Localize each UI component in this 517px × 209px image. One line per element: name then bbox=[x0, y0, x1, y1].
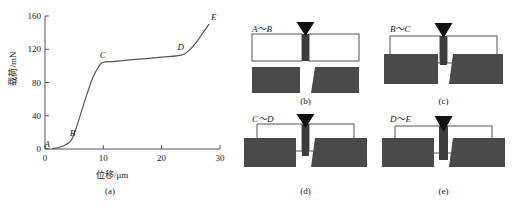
curve-point-label-d: D bbox=[177, 42, 185, 52]
chart-panel-a: 0 40 80 120 160 0 10 20 30 A B C D E 载荷/… bbox=[0, 0, 232, 209]
x-tick-label-30: 30 bbox=[216, 153, 226, 163]
curve-point-label-c: C bbox=[100, 50, 107, 60]
substrate-right-e bbox=[449, 138, 505, 167]
substrate-right-d bbox=[311, 138, 367, 167]
stage-label-d: C～D bbox=[252, 112, 274, 125]
schematic-panel-b: A～B (b) bbox=[236, 16, 375, 115]
x-axis-title: 位移/μm bbox=[96, 168, 128, 181]
y-tick-label-120: 120 bbox=[28, 44, 42, 54]
x-axis-ticks bbox=[45, 145, 220, 149]
stage-label-e: D～E bbox=[390, 112, 411, 125]
curve-point-label-a: A bbox=[44, 139, 51, 149]
substrate-left-b bbox=[252, 67, 300, 93]
y-tick-label-80: 80 bbox=[32, 78, 42, 88]
x-tick-label-20: 20 bbox=[157, 153, 167, 163]
panel-caption-e: (e) bbox=[374, 186, 513, 196]
curve-point-label-e: E bbox=[210, 12, 217, 22]
x-tick-label-0: 0 bbox=[43, 153, 48, 163]
panel-caption-d: (d) bbox=[236, 186, 375, 196]
film-left-b bbox=[252, 34, 302, 61]
panel-caption-b: (b) bbox=[236, 96, 375, 106]
substrate-left-e bbox=[382, 138, 434, 167]
indenter-column-c bbox=[440, 36, 447, 65]
indenter-column-b bbox=[302, 34, 309, 61]
panel-caption-a: (a) bbox=[105, 186, 115, 196]
schematic-panel-c: B～C (c) bbox=[374, 16, 513, 115]
schematic-panel-d: C～D (d) bbox=[236, 106, 375, 205]
load-displacement-curve bbox=[53, 24, 209, 148]
substrate-right-c bbox=[449, 54, 503, 84]
substrate-left-d bbox=[244, 138, 296, 167]
schematic-panel-e: D～E (e) bbox=[374, 106, 513, 205]
curve-point-label-b: B bbox=[70, 128, 76, 138]
substrate-right-b bbox=[311, 67, 359, 93]
y-tick-label-0: 0 bbox=[37, 144, 42, 154]
y-tick-label-160: 160 bbox=[28, 11, 42, 21]
stage-label-c: B～C bbox=[390, 22, 411, 35]
y-axis-title: 载荷/mN bbox=[6, 46, 19, 92]
x-tick-label-10: 10 bbox=[99, 153, 109, 163]
figure-container: 0 40 80 120 160 0 10 20 30 A B C D E 载荷/… bbox=[0, 0, 517, 209]
substrate-left-c bbox=[384, 54, 438, 84]
panel-caption-c: (c) bbox=[374, 96, 513, 106]
film-right-b bbox=[309, 34, 359, 61]
y-tick-label-40: 40 bbox=[32, 111, 42, 121]
indenter-column-d bbox=[302, 124, 309, 156]
y-axis-ticks bbox=[45, 16, 49, 149]
stage-label-b: A～B bbox=[252, 22, 272, 35]
